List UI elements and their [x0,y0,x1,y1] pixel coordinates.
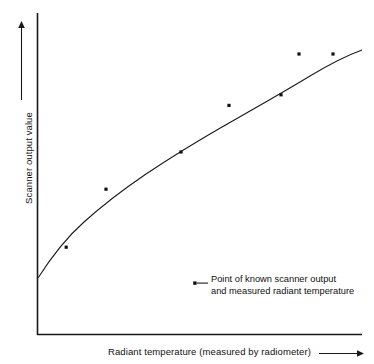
plot-canvas [0,0,374,364]
arrow-up-icon [18,21,25,28]
legend-label-line-2: and measured radiant temperature [211,286,354,298]
data-point [297,52,300,55]
chart-figure: Scanner output value Radiant temperature… [0,0,374,364]
legend-marker-icon [193,281,196,284]
y-axis-label: Scanner output value [23,83,34,233]
data-point [179,150,182,153]
data-point [104,188,107,191]
data-point [331,52,334,55]
fitted-curve [38,50,362,278]
data-point [65,246,68,249]
x-axis-label: Radiant temperature (measured by radiome… [108,346,311,357]
legend: Point of known scanner output and measur… [211,274,354,297]
data-point [227,104,230,107]
arrow-right-icon [357,350,364,357]
legend-label-line-1: Point of known scanner output [211,274,354,286]
data-point [279,93,282,96]
